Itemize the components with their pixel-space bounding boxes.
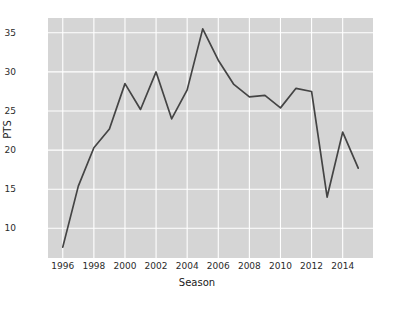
x-axis-tick-2014: 2014	[331, 262, 354, 271]
x-axis-tick-2006: 2006	[207, 262, 230, 271]
plot-area	[48, 18, 373, 258]
x-axis-tick-2002: 2002	[145, 262, 168, 271]
chart-figure: PTS 101520253035 19961998200020022004200…	[0, 0, 394, 311]
y-axis-tick-35: 35	[0, 28, 16, 37]
y-axis-tick-25: 25	[0, 107, 16, 116]
x-axis-tick-1998: 1998	[82, 262, 105, 271]
y-axis-tick-10: 10	[0, 224, 16, 233]
y-axis-tick-30: 30	[0, 67, 16, 76]
y-axis-tick-15: 15	[0, 185, 16, 194]
x-axis-tick-2004: 2004	[176, 262, 199, 271]
x-axis-label: Season	[0, 277, 394, 288]
x-axis-tick-2012: 2012	[300, 262, 323, 271]
data-line-series	[48, 18, 373, 258]
x-axis-tick-2010: 2010	[269, 262, 292, 271]
x-axis-tick-1996: 1996	[51, 262, 74, 271]
x-axis-tick-2000: 2000	[114, 262, 137, 271]
y-axis-tick-20: 20	[0, 146, 16, 155]
x-axis-tick-2008: 2008	[238, 262, 261, 271]
